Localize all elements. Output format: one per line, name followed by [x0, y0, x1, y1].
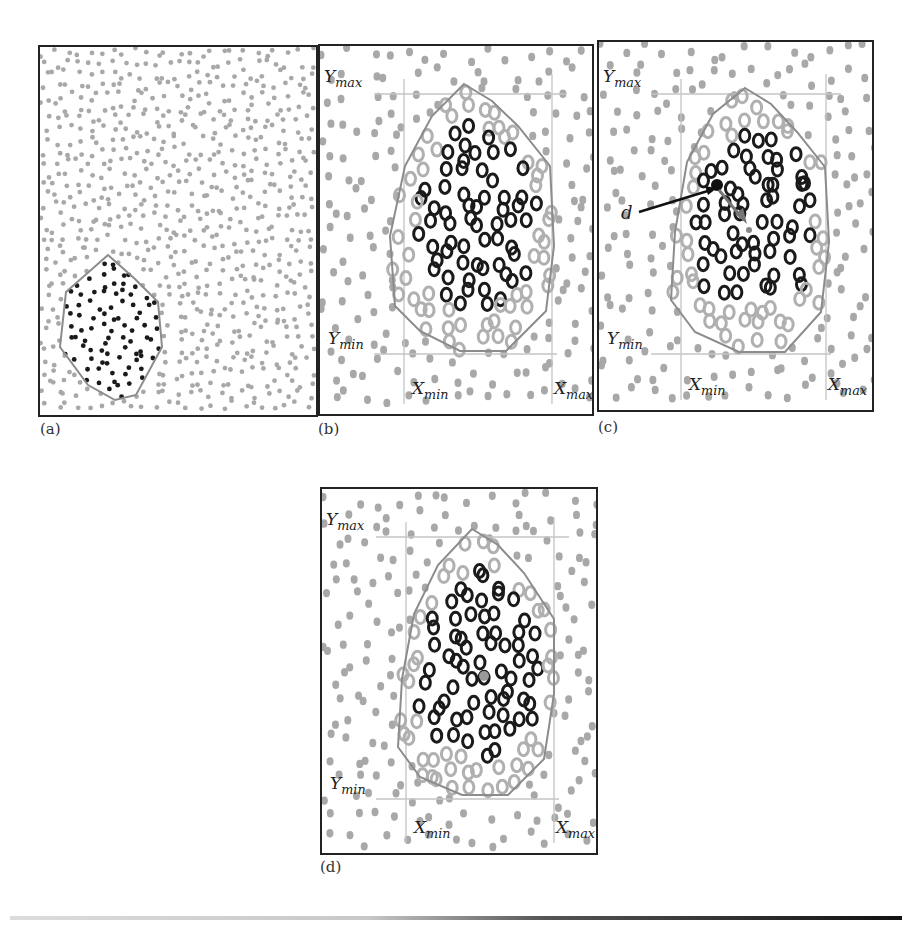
background-dot: [182, 215, 187, 220]
background-dot: [283, 147, 288, 152]
background-dot: [611, 167, 618, 175]
background-dot: [591, 530, 596, 538]
background-dot: [70, 217, 75, 222]
background-dot: [249, 178, 254, 183]
background-dot: [94, 218, 99, 223]
boundary-ring: [740, 114, 750, 127]
region-ring: [521, 214, 531, 227]
background-dot: [107, 166, 112, 171]
panel-b-scatter: YmaxYminXminXmax: [320, 46, 592, 414]
background-dot: [58, 151, 63, 156]
background-dot: [116, 89, 121, 94]
background-dot: [187, 172, 192, 177]
background-dot: [571, 337, 578, 345]
background-dot: [185, 105, 190, 110]
background-dot: [667, 342, 674, 350]
background-dot: [306, 229, 311, 234]
background-dot: [571, 615, 578, 623]
background-dot: [377, 682, 384, 690]
background-dot: [132, 173, 137, 178]
background-dot: [234, 185, 239, 190]
background-dot: [391, 812, 398, 820]
region-ring: [785, 251, 795, 264]
background-dot: [154, 405, 159, 410]
axis-label: Xmax: [554, 817, 595, 841]
background-dot: [393, 789, 400, 797]
boundary-ring: [752, 334, 762, 347]
background-dot: [309, 322, 314, 327]
background-dot: [566, 134, 573, 142]
boundary-ring: [458, 566, 468, 579]
background-dot: [200, 338, 205, 343]
background-dot: [489, 843, 496, 851]
background-dot: [165, 203, 170, 208]
region-ring: [753, 134, 763, 147]
background-dot: [833, 228, 840, 236]
region-ring: [447, 595, 457, 608]
background-dot: [282, 403, 287, 408]
background-dot: [527, 391, 534, 399]
background-dot: [244, 311, 249, 316]
region-ring: [443, 271, 453, 284]
region-ring: [477, 594, 487, 607]
background-dot: [40, 54, 43, 59]
background-dot: [390, 92, 397, 100]
background-dot: [161, 139, 166, 144]
background-dot: [374, 618, 381, 626]
background-dot: [232, 74, 237, 79]
background-dot: [312, 373, 316, 378]
background-dot: [650, 268, 657, 276]
background-dot: [130, 183, 135, 188]
background-dot: [309, 269, 314, 274]
boundary-ring: [456, 750, 466, 763]
background-dot: [568, 786, 575, 794]
background-dot: [468, 839, 475, 847]
background-dot: [54, 199, 59, 204]
background-dot: [327, 757, 334, 765]
background-dot: [119, 52, 124, 57]
background-dot: [214, 359, 219, 364]
background-dot: [172, 144, 177, 149]
background-dot: [184, 356, 189, 361]
background-dot: [171, 263, 176, 268]
background-dot: [323, 589, 330, 597]
background-dot: [383, 527, 390, 535]
background-dot: [156, 152, 161, 157]
background-dot: [90, 129, 95, 134]
background-dot: [139, 90, 144, 95]
background-dot: [117, 192, 122, 197]
background-dot: [86, 60, 91, 65]
background-dot: [68, 195, 73, 200]
background-dot: [837, 264, 844, 272]
background-dot: [79, 95, 84, 100]
background-dot: [845, 42, 852, 49]
background-dot: [808, 82, 815, 90]
background-dot: [166, 124, 171, 129]
background-dot: [156, 261, 161, 266]
background-dot: [617, 165, 624, 173]
region-ring: [795, 200, 805, 213]
region-dot: [123, 372, 128, 377]
background-dot: [388, 147, 395, 155]
background-dot: [211, 369, 216, 374]
background-dot: [249, 169, 254, 174]
background-dot: [261, 293, 266, 298]
background-dot: [78, 228, 83, 233]
background-dot: [425, 813, 432, 821]
region-dot: [105, 361, 110, 366]
background-dot: [171, 134, 176, 139]
background-dot: [468, 58, 475, 66]
background-dot: [195, 60, 200, 65]
background-dot: [641, 42, 648, 48]
background-dot: [309, 237, 314, 242]
background-dot: [332, 720, 339, 728]
background-dot: [271, 343, 276, 348]
background-dot: [119, 224, 124, 229]
background-dot: [396, 501, 403, 509]
background-dot: [244, 404, 249, 409]
background-dot: [604, 293, 611, 301]
background-dot: [217, 313, 222, 318]
background-dot: [266, 101, 271, 106]
background-dot: [244, 82, 249, 87]
background-dot: [237, 334, 242, 339]
